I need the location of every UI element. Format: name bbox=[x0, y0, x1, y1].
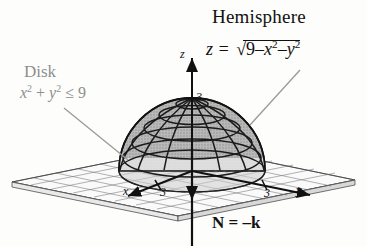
radical-sign: √ bbox=[236, 39, 246, 59]
radicand-a: 9 bbox=[246, 39, 255, 59]
equation-minus-2: – bbox=[278, 39, 287, 59]
disk-x-exponent: 2 bbox=[27, 83, 32, 94]
hemisphere-equation: z = √9–x2–y2 bbox=[206, 39, 300, 60]
axis-label-z: z bbox=[180, 47, 185, 62]
axis-label-x: x bbox=[123, 184, 128, 199]
tick-label-x: 3 bbox=[160, 185, 166, 200]
hemisphere-title: Hemisphere bbox=[212, 6, 306, 28]
disk-value: 9 bbox=[78, 84, 86, 101]
equation-lhs: z = bbox=[206, 39, 230, 59]
radical-group: √9–x2–y2 bbox=[234, 39, 300, 60]
disk-y-exponent: 2 bbox=[56, 83, 61, 94]
radical-overbar bbox=[243, 40, 300, 41]
disk-plus: + bbox=[36, 84, 45, 101]
equation-minus-1: – bbox=[255, 39, 264, 59]
radicand-c: y bbox=[287, 39, 295, 59]
axis-label-y: y bbox=[296, 183, 301, 198]
radicand-b: x bbox=[264, 39, 272, 59]
tick-label-z: 3 bbox=[196, 90, 202, 105]
disk-relation: ≤ bbox=[65, 84, 74, 101]
tick-label-y: 3 bbox=[264, 186, 270, 201]
normal-vector-label: N = –k bbox=[212, 213, 260, 233]
disk-title: Disk bbox=[24, 62, 56, 82]
hemisphere-diagram bbox=[0, 0, 367, 246]
disk-inequality: x2 + y2 ≤ 9 bbox=[20, 84, 86, 102]
